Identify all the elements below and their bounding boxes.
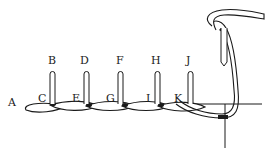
stitch-chain xyxy=(25,9,264,118)
label-e: E xyxy=(72,92,80,105)
label-a: A xyxy=(7,96,17,109)
label-g: G xyxy=(106,92,115,105)
label-k: K xyxy=(174,92,183,105)
label-f: F xyxy=(116,54,124,67)
label-b: B xyxy=(48,54,56,67)
stitch-diagram: A B C D E F G H I J K xyxy=(0,0,276,159)
label-h: H xyxy=(151,54,161,67)
label-i: I xyxy=(146,92,150,105)
label-d: D xyxy=(80,54,89,67)
label-c: C xyxy=(38,92,46,105)
label-j: J xyxy=(185,54,190,67)
